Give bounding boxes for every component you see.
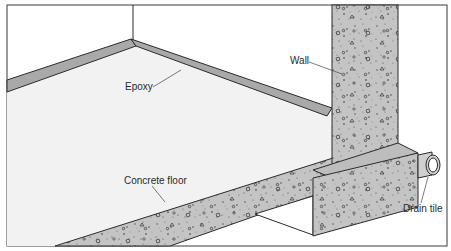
label-concrete-floor: Concrete floor bbox=[124, 176, 187, 186]
label-epoxy: Epoxy bbox=[125, 82, 153, 92]
label-wall: Wall bbox=[290, 56, 309, 66]
drain-tile-icon bbox=[418, 152, 440, 178]
basement-diagram bbox=[0, 0, 451, 251]
label-drain-tile: Drain tile bbox=[403, 204, 442, 214]
